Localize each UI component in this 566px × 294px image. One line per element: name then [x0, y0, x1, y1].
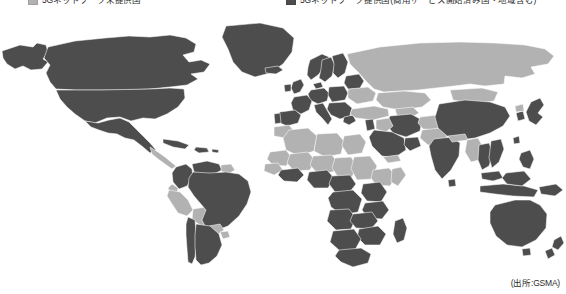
- country-chile: [186, 217, 196, 264]
- legend-entry-launched: 5Gネットワーク提供国(商用サービス開始済み国・地域含む): [286, 0, 536, 6]
- country-mali: [287, 152, 315, 171]
- country-puerto-rico: [212, 149, 219, 153]
- legend-swatch-launched: [286, 0, 296, 5]
- country-poland: [328, 86, 348, 102]
- country-sri-lanka: [448, 179, 456, 187]
- country-canada: [44, 35, 210, 90]
- country-egypt: [342, 134, 366, 155]
- country-portugal: [274, 113, 281, 124]
- world-map-figure: 5Gネットワーク未提供国 5Gネットワーク提供国(商用サービス開始済み国・地域含…: [0, 0, 566, 294]
- legend-entry-not-launched: 5Gネットワーク未提供国: [28, 0, 141, 6]
- country-tasmania: [522, 248, 531, 256]
- country-ireland: [284, 84, 291, 92]
- map-legend: 5Gネットワーク未提供国 5Gネットワーク提供国(商用サービス開始済み国・地域含…: [0, 0, 566, 6]
- legend-label-not-launched: 5Gネットワーク未提供国: [42, 0, 141, 6]
- country-south-korea: [516, 111, 525, 121]
- legend-label-launched: 5Gネットワーク提供国(商用サービス開始済み国・地域含む): [300, 0, 536, 6]
- world-map-svg: [0, 14, 566, 272]
- legend-swatch-not-launched: [28, 0, 38, 5]
- country-libya: [314, 133, 344, 157]
- map-canvas: [0, 14, 566, 272]
- country-israel-levant: [365, 119, 375, 131]
- source-attribution: (出所:GSMA): [511, 276, 560, 288]
